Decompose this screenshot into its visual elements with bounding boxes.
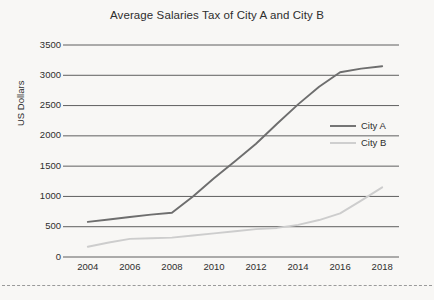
bottom-divider bbox=[2, 285, 432, 286]
legend-label-city-a: City A bbox=[361, 120, 386, 131]
x-tick-label: 2012 bbox=[236, 261, 276, 272]
plot-area bbox=[0, 0, 434, 300]
y-tick-label: 1000 bbox=[19, 190, 61, 201]
x-tick-label: 2014 bbox=[278, 261, 318, 272]
legend-label-city-b: City B bbox=[361, 137, 386, 148]
y-tick-label: 0 bbox=[19, 251, 61, 262]
chart-container: Average Salaries Tax of City A and City … bbox=[0, 0, 434, 300]
chart-title: Average Salaries Tax of City A and City … bbox=[0, 9, 434, 21]
y-tick-label: 2500 bbox=[19, 99, 61, 110]
series-line-city-a bbox=[88, 66, 382, 222]
x-tick-label: 2018 bbox=[362, 261, 402, 272]
y-tick-label: 2000 bbox=[19, 129, 61, 140]
x-tick-label: 2008 bbox=[152, 261, 192, 272]
y-tick-label: 500 bbox=[19, 220, 61, 231]
x-tick-label: 2006 bbox=[110, 261, 150, 272]
x-tick-label: 2004 bbox=[68, 261, 108, 272]
x-tick-label: 2016 bbox=[320, 261, 360, 272]
y-tick-label: 3000 bbox=[19, 69, 61, 80]
x-tick-label: 2010 bbox=[194, 261, 234, 272]
y-tick-label: 3500 bbox=[19, 39, 61, 50]
series-line-city-b bbox=[88, 187, 382, 246]
y-tick-label: 1500 bbox=[19, 160, 61, 171]
